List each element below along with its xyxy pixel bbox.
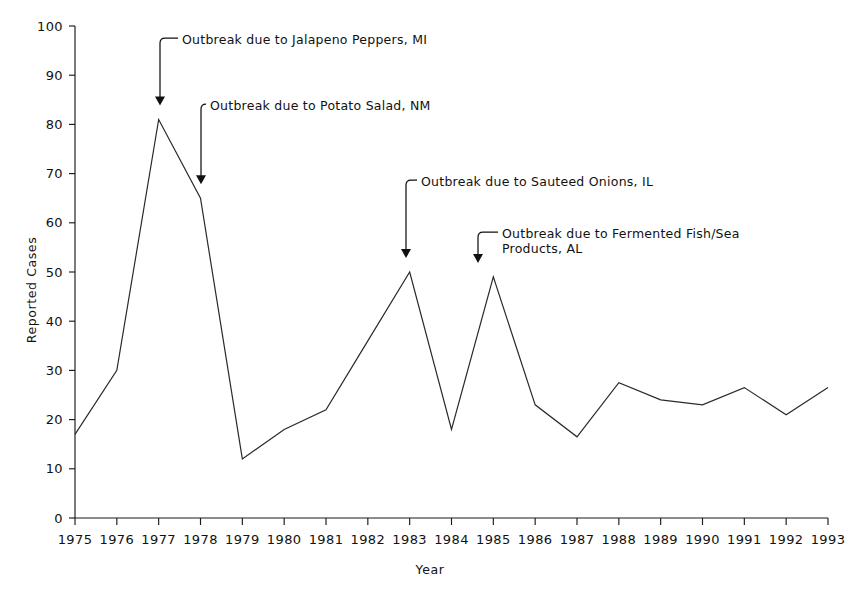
x-axis-tick-label: 1989: [643, 532, 678, 547]
x-axis-ticks: [75, 518, 828, 525]
x-axis-tick-label: 1975: [58, 532, 93, 547]
x-axis-tick-labels: 1975197619771978197919801981198219831984…: [58, 532, 846, 547]
annotation-label: Outbreak due to Potato Salad, NM: [210, 98, 431, 113]
annotation-arrowhead: [401, 249, 411, 258]
y-axis-tick-label: 0: [54, 511, 63, 526]
annotation: Outbreak due to Fermented Fish/SeaProduc…: [473, 226, 740, 263]
annotation: Outbreak due to Jalapeno Peppers, MI: [155, 32, 427, 105]
y-axis-tick-label: 100: [37, 19, 63, 34]
annotation-label: Products, AL: [502, 241, 582, 256]
x-axis-tick-label: 1976: [99, 532, 134, 547]
x-axis-title: Year: [415, 562, 445, 577]
data-series-line: [75, 119, 828, 458]
x-axis-tick-label: 1979: [225, 532, 260, 547]
annotation-leader-line: [201, 104, 206, 176]
y-axis-title: Reported Cases: [24, 237, 39, 344]
y-axis-tick-label: 60: [46, 215, 63, 230]
y-axis-tick-label: 80: [46, 117, 63, 132]
x-axis-tick-label: 1983: [392, 532, 427, 547]
annotation-label: Outbreak due to Jalapeno Peppers, MI: [182, 32, 427, 47]
x-axis-tick-label: 1980: [267, 532, 302, 547]
x-axis-tick-label: 1988: [601, 532, 636, 547]
x-axis-tick-label: 1977: [141, 532, 176, 547]
x-axis-tick-label: 1982: [350, 532, 385, 547]
y-axis-tick-label: 10: [46, 461, 63, 476]
annotation-group: Outbreak due to Jalapeno Peppers, MIOutb…: [155, 32, 740, 263]
x-axis-tick-label: 1992: [769, 532, 804, 547]
annotation-leader-line: [478, 232, 498, 255]
y-axis-tick-label: 50: [46, 265, 63, 280]
x-axis-tick-label: 1984: [434, 532, 469, 547]
x-axis-tick-label: 1993: [811, 532, 846, 547]
annotation-label: Outbreak due to Sauteed Onions, IL: [421, 174, 653, 189]
x-axis-tick-label: 1978: [183, 532, 218, 547]
chart-figure: 0102030405060708090100 19751976197719781…: [0, 0, 846, 590]
y-axis-tick-label: 40: [46, 314, 63, 329]
y-axis-tick-label: 30: [46, 363, 63, 378]
x-axis-tick-label: 1990: [685, 532, 720, 547]
y-axis-tick-label: 20: [46, 412, 63, 427]
y-axis-ticks: [69, 26, 75, 518]
annotation-arrowhead: [196, 175, 206, 184]
x-axis-tick-label: 1987: [560, 532, 595, 547]
annotation-leader-line: [160, 38, 178, 97]
x-axis-tick-label: 1981: [309, 532, 344, 547]
annotation-arrowhead: [155, 96, 165, 105]
annotation-label: Outbreak due to Fermented Fish/Sea: [502, 226, 740, 241]
annotation: Outbreak due to Potato Salad, NM: [196, 98, 431, 184]
x-axis-tick-label: 1986: [518, 532, 553, 547]
x-axis-tick-label: 1985: [476, 532, 511, 547]
line-chart-canvas: 0102030405060708090100 19751976197719781…: [0, 0, 846, 590]
y-axis-tick-labels: 0102030405060708090100: [37, 19, 63, 526]
x-axis-tick-label: 1991: [727, 532, 762, 547]
annotation-arrowhead: [473, 254, 483, 263]
y-axis-tick-label: 70: [46, 166, 63, 181]
y-axis-tick-label: 90: [46, 68, 63, 83]
annotation-leader-line: [406, 180, 417, 250]
